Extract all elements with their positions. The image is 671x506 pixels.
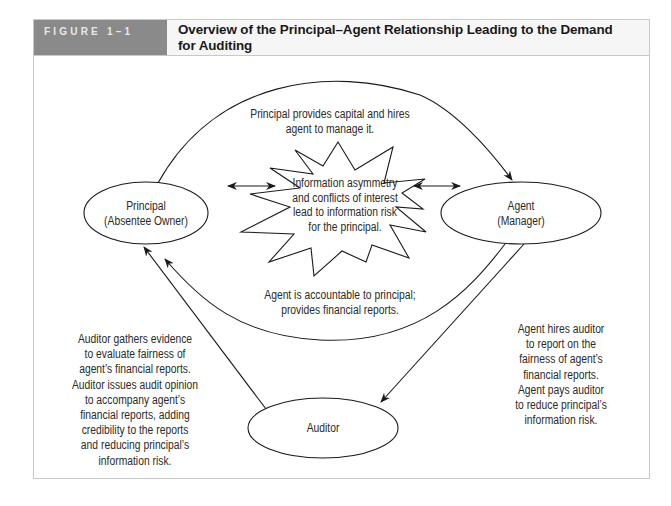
label-agent-node: Agent (Manager) xyxy=(469,199,572,228)
text-line: lead to information risk xyxy=(272,205,418,220)
text-line: for the principal. xyxy=(272,220,418,235)
label-principal-node: Principal (Absentee Owner) xyxy=(94,199,197,228)
text-line: agent to manage it. xyxy=(231,122,429,137)
text-line: (Manager) xyxy=(469,214,572,229)
label-auditor-node: Auditor xyxy=(280,421,366,436)
text-line: Agent pays auditor xyxy=(514,383,609,398)
text-line: Auditor xyxy=(280,421,366,436)
text-line: (Absentee Owner) xyxy=(94,214,197,229)
text-line: Auditor issues audit opinion xyxy=(71,378,200,393)
text-line: Principal provides capital and hires xyxy=(231,107,429,122)
label-auditor-to-principal: Auditor gathers evidence to evaluate fai… xyxy=(71,332,200,469)
text-line: and reducing principal’s xyxy=(71,438,200,453)
text-line: financial reports. xyxy=(514,368,609,383)
text-line: to reduce principal’s xyxy=(514,398,609,413)
text-line: Agent is accountable to principal; xyxy=(241,288,439,303)
text-line: to report on the xyxy=(514,337,609,352)
text-line: Agent xyxy=(469,199,572,214)
arrow-agent-to-auditor xyxy=(381,244,524,402)
text-line: credibility to the reports xyxy=(71,423,200,438)
text-line: information risk. xyxy=(514,413,609,428)
text-line: information risk. xyxy=(71,454,200,469)
label-information-risk: Information asymmetry and conflicts of i… xyxy=(272,176,418,234)
text-line: agent’s financial reports. xyxy=(71,362,200,377)
label-agent-to-principal: Agent is accountable to principal; provi… xyxy=(241,288,439,317)
text-line: provides financial reports. xyxy=(241,303,439,318)
text-line: Information asymmetry xyxy=(272,176,418,191)
text-line: financial reports, adding xyxy=(71,408,200,423)
text-line: Principal xyxy=(94,199,197,214)
label-principal-to-agent: Principal provides capital and hires age… xyxy=(231,107,429,136)
text-line: and conflicts of interest xyxy=(272,191,418,206)
text-line: to evaluate fairness of xyxy=(71,347,200,362)
text-line: Auditor gathers evidence xyxy=(71,332,200,347)
label-agent-to-auditor: Agent hires auditor to report on the fai… xyxy=(514,322,609,428)
text-line: Agent hires auditor xyxy=(514,322,609,337)
text-line: to accompany agent’s xyxy=(71,393,200,408)
text-line: fairness of agent’s xyxy=(514,352,609,367)
